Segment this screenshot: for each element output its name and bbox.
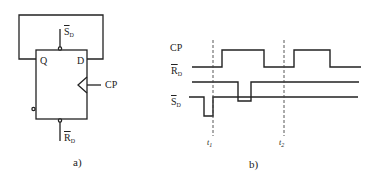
d-flipflop-symbol [19,15,103,141]
timing-waveforms [189,50,361,116]
sd-pin-label: SD [64,27,74,40]
cp-pin-label: CP [105,80,117,90]
signal-label-rd: RD [171,66,182,79]
rd-inversion-bubble [58,119,61,122]
rd-main: R [64,132,71,143]
signal-label-cp: CP [170,43,182,53]
q-pin-label: Q [40,56,47,66]
sd-inversion-bubble [58,47,61,50]
t1-sub: 1 [209,142,212,148]
feedback-wire [19,15,103,59]
t2-sub: 2 [281,142,284,148]
qbar-bubble [32,107,35,110]
rd-waveform [192,82,359,101]
caption-a: a) [73,157,82,167]
rd-sub: D [178,71,182,77]
time-markers [213,40,284,136]
caption-b: b) [249,159,258,169]
d-pin-label: D [77,56,84,66]
rd-sub: D [71,138,75,144]
diagram-canvas [0,0,374,182]
sd-sub: D [177,102,181,108]
rd-pin-label: RD [64,133,75,146]
signal-label-sd: SD [171,97,181,110]
t2-label: t2 [279,138,284,150]
t1-label: t1 [207,138,212,150]
cp-waveform [192,50,361,67]
rd-main: R [171,65,178,76]
sd-sub: D [70,32,74,38]
sd-waveform [189,97,358,116]
clock-triangle-icon [78,77,87,93]
